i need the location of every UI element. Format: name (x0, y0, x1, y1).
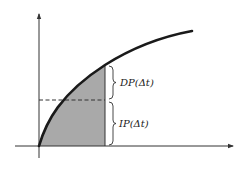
diagram-canvas: DP(Δt) IP(Δt) (0, 0, 245, 170)
upper-brace (109, 66, 116, 99)
lower-brace (109, 102, 116, 145)
ip-label: IP(Δt) (118, 118, 149, 129)
dp-label: DP(Δt) (119, 77, 154, 88)
shaded-area (39, 65, 105, 146)
